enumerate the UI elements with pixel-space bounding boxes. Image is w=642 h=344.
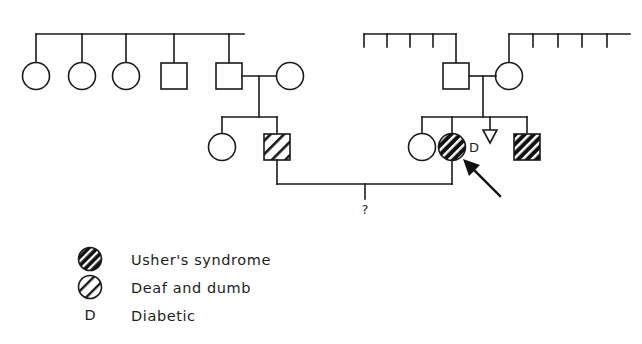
individual-female-unaffected	[113, 63, 140, 90]
consanguineous-union-line	[277, 184, 452, 199]
legend-symbol-ushers-syndrome	[79, 248, 102, 271]
legend-symbol-deaf-and-dumb	[79, 276, 102, 299]
legend-label-deaf-and-dumb: Deaf and dumb	[131, 280, 251, 296]
individual-female-unaffected	[409, 134, 436, 161]
individual-male-father-unaffected	[443, 63, 469, 89]
individual-female-unaffected	[23, 63, 50, 90]
gen1-right-father-sibship-line	[364, 34, 456, 63]
unknown-offspring-label: ?	[362, 202, 369, 217]
legend-label-ushers-syndrome: Usher's syndrome	[131, 252, 271, 268]
individual-female-spouse-unaffected	[277, 63, 304, 90]
individual-male-unaffected	[161, 63, 187, 89]
individual-female-ushers-syndrome-proband	[439, 134, 466, 161]
legend-symbol-diabetic-letter: D	[84, 307, 95, 323]
diabetic-label: D	[469, 140, 479, 155]
individual-male-ushers-syndrome	[514, 134, 540, 160]
legend-label-diabetic: Diabetic	[131, 308, 196, 324]
individual-female-unaffected	[209, 134, 236, 161]
gen1-right-mother-sibship-line	[509, 34, 630, 63]
gen2-left-sibship-line	[222, 117, 277, 133]
gen2-right-sibship-line	[422, 117, 527, 133]
individual-pregnancy-loss-triangle	[483, 130, 497, 143]
individual-male-deaf-and-dumb	[264, 134, 290, 160]
gen1-left-drop-lines	[36, 34, 229, 63]
proband-arrow	[463, 159, 500, 196]
individual-male-unaffected	[216, 63, 242, 89]
pedigree-diagram: ? D D Usher's syndrome Deaf and dumb Dia…	[0, 0, 642, 344]
pedigree-figure: ? D D Usher's syndrome Deaf and dumb Dia…	[0, 0, 642, 344]
individual-female-mother-unaffected	[496, 63, 523, 90]
individual-female-unaffected	[69, 63, 96, 90]
